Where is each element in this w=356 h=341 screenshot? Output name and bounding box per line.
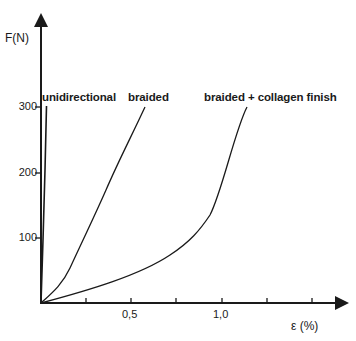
x-tick-label-1-0: 1,0 (213, 308, 228, 320)
x-tick-label-0-5: 0,5 (122, 308, 137, 320)
curve-braided (41, 107, 145, 303)
x-axis-arrow-icon (335, 296, 349, 310)
series-label-braided-collagen: braided + collagen finish (204, 91, 337, 103)
y-tick-label-300: 300 (19, 100, 37, 112)
y-tick-label-200: 200 (19, 166, 37, 178)
curve-braided-collagen (41, 107, 247, 303)
x-axis-title: ε (%) (291, 319, 318, 333)
y-tick-label-100: 100 (19, 231, 37, 243)
y-axis-title: F(N) (5, 31, 29, 45)
series-label-braided: braided (128, 91, 169, 103)
stress-strain-chart (0, 0, 356, 341)
y-axis-arrow-icon (34, 13, 48, 27)
series-label-unidirectional: unidirectional (42, 91, 116, 103)
